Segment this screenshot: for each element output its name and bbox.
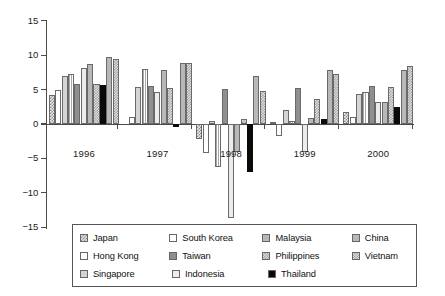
legend-row: Hong KongTaiwanPhilippinesVietnam: [80, 247, 410, 265]
bar: [167, 88, 173, 124]
legend-swatch-icon: [169, 234, 177, 242]
y-tick: [41, 192, 46, 193]
x-tick: [412, 125, 413, 129]
legend-item: China: [352, 233, 410, 243]
y-tick-label: 10: [8, 49, 38, 60]
y-tick: [41, 20, 46, 21]
bar: [333, 74, 339, 124]
bar: [327, 70, 333, 124]
y-tick: [41, 89, 46, 90]
legend-swatch-icon: [352, 252, 360, 260]
bar: [186, 63, 192, 124]
y-tick-label: 5: [8, 84, 38, 95]
bar: [308, 118, 314, 124]
bar: [113, 59, 119, 124]
legend-label: Singapore: [93, 269, 135, 279]
x-tick: [264, 125, 265, 129]
legend-item: Singapore: [80, 269, 172, 279]
legend-swatch-icon: [169, 252, 177, 260]
bar: [289, 121, 295, 124]
legend-item: South Korea: [169, 233, 262, 243]
y-tick-label: −5: [8, 152, 38, 163]
bar: [362, 92, 368, 124]
bar: [407, 66, 413, 124]
legend-label: Vietnam: [365, 251, 398, 261]
legend-label: Malaysia: [275, 233, 311, 243]
legend-item: Japan: [80, 233, 169, 243]
year-label: 1998: [206, 148, 256, 159]
y-tick: [41, 158, 46, 159]
y-tick-label: −10: [8, 187, 38, 198]
bar: [375, 102, 381, 124]
y-tick-label: 0: [8, 118, 38, 129]
bar: [196, 124, 202, 139]
bar: [295, 88, 301, 124]
y-tick: [41, 55, 46, 56]
bar: [394, 107, 400, 124]
legend-item: Malaysia: [262, 233, 351, 243]
bar: [356, 94, 362, 124]
legend-item: Indonesia: [172, 269, 268, 279]
year-label: 1996: [59, 148, 109, 159]
x-tick: [338, 125, 339, 129]
legend-swatch-icon: [80, 252, 88, 260]
legend-row: SingaporeIndonesiaThailand: [80, 265, 410, 283]
legend-item: Thailand: [268, 269, 360, 279]
bar: [401, 70, 407, 124]
legend-label: Hong Kong: [93, 251, 139, 261]
bar: [161, 70, 167, 124]
legend-label: Taiwan: [182, 251, 210, 261]
legend-label: Philippines: [275, 251, 319, 261]
bar: [49, 95, 55, 124]
bar: [142, 69, 148, 124]
y-tick: [41, 227, 46, 228]
x-tick: [191, 125, 192, 129]
bar: [215, 124, 221, 167]
legend-item: Vietnam: [352, 251, 410, 261]
bar: [369, 86, 375, 124]
legend-swatch-icon: [352, 234, 360, 242]
bar: [343, 112, 349, 124]
bar: [241, 119, 247, 125]
bar: [55, 90, 61, 124]
bar: [106, 57, 112, 124]
bar: [173, 124, 179, 127]
year-label: 2000: [353, 148, 403, 159]
legend-swatch-icon: [80, 270, 88, 278]
bar: [314, 99, 320, 124]
legend-item: Philippines: [262, 251, 351, 261]
bar: [222, 89, 228, 124]
legend-swatch-icon: [262, 234, 270, 242]
legend-label: South Korea: [182, 233, 233, 243]
legend: JapanSouth KoreaMalaysiaChinaHong KongTa…: [72, 224, 417, 287]
bar: [253, 76, 259, 124]
bar: [81, 68, 87, 124]
legend-row: JapanSouth KoreaMalaysiaChina: [80, 229, 410, 247]
bar: [260, 91, 266, 124]
bar: [93, 84, 99, 124]
bar: [209, 121, 215, 124]
plot-area: 151050−5−10−15 19961997199819992000: [0, 0, 445, 240]
y-tick-label: −15: [8, 221, 38, 232]
bar: [154, 92, 160, 124]
legend-label: Thailand: [281, 269, 316, 279]
legend-label: Indonesia: [185, 269, 224, 279]
legend-swatch-icon: [262, 252, 270, 260]
chart-figure: 151050−5−10−15 19961997199819992000 Japa…: [0, 0, 445, 296]
bar: [74, 84, 80, 124]
bar: [62, 76, 68, 124]
legend-item: Hong Kong: [80, 251, 169, 261]
bar: [180, 63, 186, 124]
bar: [68, 74, 74, 124]
bar: [321, 119, 327, 125]
bar: [350, 117, 356, 124]
year-label: 1997: [133, 148, 183, 159]
legend-swatch-icon: [268, 270, 276, 278]
bar: [87, 64, 93, 124]
year-label: 1999: [280, 148, 330, 159]
bar: [148, 86, 154, 124]
bar: [283, 110, 289, 124]
legend-label: Japan: [93, 233, 118, 243]
bar: [135, 87, 141, 124]
legend-swatch-icon: [80, 234, 88, 242]
